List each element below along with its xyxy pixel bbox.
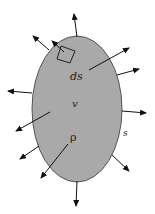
label-rho: ρ bbox=[70, 131, 76, 144]
normal-arrow bbox=[117, 69, 139, 75]
normal-arrow bbox=[112, 155, 129, 171]
control-volume-diagram: ds v ρ s bbox=[0, 0, 155, 214]
label-s: s bbox=[123, 128, 128, 138]
normal-arrow bbox=[20, 146, 39, 159]
label-ds: ds bbox=[70, 70, 83, 83]
control-volume-body bbox=[32, 36, 122, 182]
normal-arrow bbox=[76, 181, 77, 206]
normal-arrow bbox=[33, 36, 49, 50]
normal-arrow bbox=[8, 91, 32, 93]
normal-arrow bbox=[122, 111, 146, 113]
normal-arrow bbox=[74, 14, 77, 37]
label-v: v bbox=[72, 98, 78, 109]
